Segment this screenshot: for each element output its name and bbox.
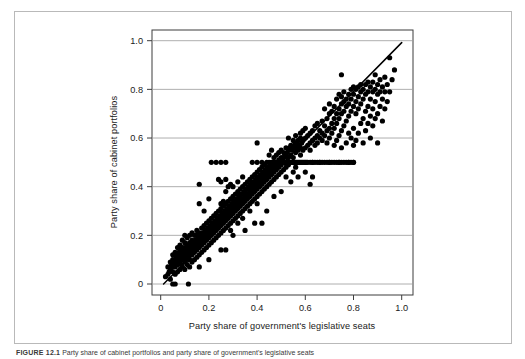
scatter-point (351, 143, 356, 148)
scatter-point (310, 160, 315, 165)
scatter-point (358, 101, 363, 106)
scatter-point (182, 267, 187, 272)
scatter-point (385, 82, 390, 87)
scatter-point (365, 89, 370, 94)
scatter-point (235, 179, 240, 184)
scatter-point (186, 281, 191, 286)
scatter-point (351, 126, 356, 131)
scatter-point (206, 196, 211, 201)
scatter-point (308, 148, 313, 153)
scatter-point (322, 123, 327, 128)
y-tick-label: 1.0 (130, 36, 143, 46)
scatter-point (375, 82, 380, 87)
scatter-point (339, 72, 344, 77)
scatter-point (363, 109, 368, 114)
x-tick-label: 0.2 (203, 303, 216, 313)
scatter-point (370, 106, 375, 111)
scatter-point (336, 133, 341, 138)
scatter-point (341, 123, 346, 128)
x-tick-label: 0.8 (347, 303, 360, 313)
scatter-point (197, 182, 202, 187)
scatter-point (361, 140, 366, 145)
x-tick-label: 0.4 (251, 303, 264, 313)
scatter-point (346, 114, 351, 119)
scatter-point (206, 257, 211, 262)
scatter-point (373, 116, 378, 121)
scatter-point (327, 101, 332, 106)
scatter-point (317, 160, 322, 165)
scatter-point (351, 104, 356, 109)
scatter-point (356, 106, 361, 111)
x-axis-title: Party share of government's legislative … (189, 321, 376, 331)
scatter-point (377, 104, 382, 109)
x-axis-ticks (161, 295, 402, 300)
scatter-point (389, 77, 394, 82)
scatter-point (267, 152, 272, 157)
scatter-point (322, 133, 327, 138)
scatter-point (344, 118, 349, 123)
scatter-point (255, 140, 260, 145)
scatter-point (351, 160, 356, 165)
scatter-point (336, 160, 341, 165)
figure-caption-label: FIGURE 12.1 (16, 349, 60, 356)
figure-root: 00.20.40.60.81.0 00.20.40.60.81.0 Party … (0, 0, 525, 359)
scatter-point (361, 116, 366, 121)
y-axis-tick-labels: 00.20.40.60.81.0 (130, 36, 143, 289)
scatter-point (361, 87, 366, 92)
scatter-point (382, 89, 387, 94)
scatter-point (353, 99, 358, 104)
y-tick-label: 0.6 (130, 133, 143, 143)
scatter-point (264, 208, 269, 213)
scatter-point (356, 131, 361, 136)
x-tick-label: 0 (158, 303, 163, 313)
scatter-point (298, 152, 303, 157)
scatter-point (348, 109, 353, 114)
scatter-point (332, 116, 337, 121)
scatter-point (315, 140, 320, 145)
scatter-point (332, 126, 337, 131)
scatter-point (346, 160, 351, 165)
scatter-point (252, 221, 257, 226)
scatter-point (303, 126, 308, 131)
y-tick-label: 0.4 (130, 182, 143, 192)
scatter-point (375, 140, 380, 145)
scatter-point (259, 221, 264, 226)
scatter-point (223, 160, 228, 165)
x-tick-label: 1.0 (395, 303, 408, 313)
scatter-point (223, 189, 228, 194)
scatter-point (283, 174, 288, 179)
scatter-point (223, 247, 228, 252)
y-tick-label: 0 (138, 279, 143, 289)
scatter-point (271, 194, 276, 199)
scatter-point (370, 123, 375, 128)
scatter-point (295, 174, 300, 179)
scatter-point (197, 264, 202, 269)
scatter-point (327, 126, 332, 131)
scatter-point (230, 233, 235, 238)
y-tick-label: 0.2 (130, 231, 143, 241)
scatter-point (187, 264, 192, 269)
scatter-point (375, 111, 380, 116)
scatter-point (291, 155, 296, 160)
scatter-point (368, 84, 373, 89)
scatter-point (250, 160, 255, 165)
scatter-point (353, 138, 358, 143)
scatter-point (209, 160, 214, 165)
scatter-point (218, 160, 223, 165)
scatter-point (373, 72, 378, 77)
scatter-point (320, 138, 325, 143)
scatter-point (348, 96, 353, 101)
scatter-point (240, 216, 245, 221)
figure-caption: FIGURE 12.1 Party share of cabinet portf… (16, 349, 314, 356)
scatter-point (373, 87, 378, 92)
y-tick-label: 0.8 (130, 85, 143, 95)
scatter-point (332, 143, 337, 148)
scatter-point (353, 111, 358, 116)
scatter-point (370, 79, 375, 84)
scatter-point (377, 89, 382, 94)
scatter-point (334, 111, 339, 116)
x-axis-tick-labels: 00.20.40.60.81.0 (158, 303, 408, 313)
scatter-point (365, 121, 370, 126)
scatter-point (377, 77, 382, 82)
scatter-point (308, 182, 313, 187)
